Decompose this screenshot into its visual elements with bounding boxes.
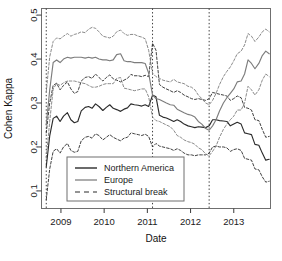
x-tick-label-1: 2010 <box>94 216 115 227</box>
legend-label-2: Structural break <box>104 187 168 197</box>
y-tick-label-2: 0.3 <box>28 96 39 109</box>
chart-canvas: 0.10.20.30.40.520092010201120122013DateC… <box>0 0 282 261</box>
x-tick-label-3: 2012 <box>180 216 201 227</box>
y-tick-label-4: 0.5 <box>28 8 39 21</box>
legend-label-0: Northern America <box>104 163 174 173</box>
cohen-kappa-time-series-figure: 0.10.20.30.40.520092010201120122013DateC… <box>0 0 282 261</box>
x-tick-label-4: 2013 <box>223 216 244 227</box>
x-tick-label-0: 2009 <box>50 216 71 227</box>
y-tick-label-0: 0.1 <box>28 184 39 197</box>
y-tick-label-1: 0.2 <box>28 140 39 153</box>
y-axis-title: Cohen Kappa <box>3 77 14 139</box>
x-tick-label-2: 2011 <box>137 216 157 227</box>
series-line-0 <box>46 95 269 167</box>
legend-label-1: Europe <box>104 175 133 185</box>
y-tick-label-3: 0.4 <box>28 52 39 65</box>
x-axis-title: Date <box>145 233 167 244</box>
